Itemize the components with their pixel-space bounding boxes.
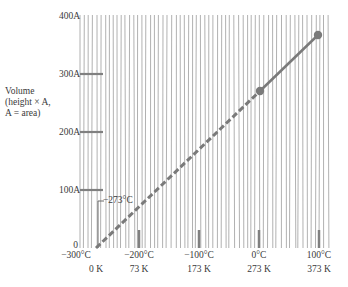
y-axis-title-line1: Volume [5, 86, 34, 97]
y-tick-300: 300A [40, 69, 80, 80]
x-tick-k-273: 273 K [234, 264, 284, 275]
x-tick-k-173: 173 K [174, 264, 224, 275]
y-tick-100: 100A [40, 185, 80, 196]
x-tick-c-minus100: −100°C [174, 250, 224, 261]
y-tick-200: 200A [40, 127, 80, 138]
data-point-0c [256, 87, 264, 95]
absolute-zero-label: −273°C [103, 195, 133, 206]
vertical-grid [80, 15, 329, 248]
y-tick-400: 400A [40, 11, 80, 22]
x-tick-c-minus300: −300°C [51, 250, 101, 261]
y-axis-title-line3: A = area) [5, 108, 40, 119]
x-tick-c-100: 100°C [294, 250, 344, 261]
x-tick-c-0: 0°C [234, 250, 284, 261]
x-tick-k-73: 73 K [114, 264, 164, 275]
data-point-100c [314, 31, 322, 39]
x-tick-k-373: 373 K [294, 264, 344, 275]
x-tick-c-minus200: −200°C [114, 250, 164, 261]
y-axis-title-line2: (height × A, [5, 97, 51, 108]
